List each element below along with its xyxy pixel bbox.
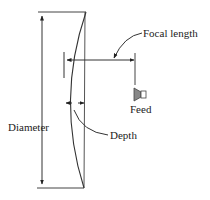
- depth-leader: [74, 110, 108, 135]
- feed-label: Feed: [130, 103, 152, 115]
- focal-length-leader: [114, 33, 142, 58]
- diameter-label: Diameter: [8, 121, 49, 133]
- focal-length-label: Focal length: [143, 27, 198, 39]
- feed-horn-icon: [134, 88, 146, 101]
- depth-label: Depth: [110, 129, 137, 141]
- aperture-plane-line: [84, 12, 85, 188]
- dish-antenna-diagram: Focal length Feed Diameter Depth: [0, 0, 210, 200]
